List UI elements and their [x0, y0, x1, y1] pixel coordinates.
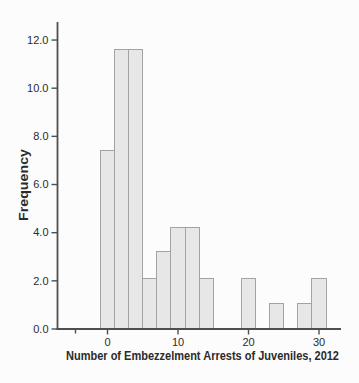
- y-tick-label: 10.0: [27, 82, 48, 94]
- x-tick-label: 30: [313, 336, 325, 348]
- y-tick-label: 4.0: [33, 226, 48, 238]
- histogram-bar: [171, 228, 185, 329]
- y-axis-ticks: 0.02.04.06.08.010.012.0: [27, 34, 57, 335]
- histogram-bar: [100, 151, 114, 329]
- y-tick-label: 0.0: [33, 323, 48, 335]
- histogram-bar: [129, 50, 143, 329]
- histogram-bar: [241, 278, 255, 329]
- y-tick-label: 8.0: [33, 130, 48, 142]
- x-axis-title: Number of Embezzelment Arrests of Juveni…: [66, 348, 339, 363]
- x-tick-label: 10: [172, 336, 184, 348]
- bars-group: [100, 50, 326, 329]
- y-tick-label: 6.0: [33, 178, 48, 190]
- y-tick-label: 12.0: [27, 34, 48, 46]
- histogram-bar: [312, 278, 326, 329]
- x-tick-label: 0: [104, 336, 110, 348]
- x-axis-ticks: 0102030: [104, 329, 325, 348]
- x-tick-label: 20: [242, 336, 254, 348]
- histogram-chart: 0.02.04.06.08.010.012.0 0102030 Frequenc…: [0, 0, 359, 383]
- histogram-bar: [185, 228, 199, 329]
- histogram-bar: [157, 252, 171, 329]
- y-axis-title: Frequency: [16, 148, 31, 221]
- histogram-bar: [199, 278, 213, 329]
- histogram-bar: [115, 50, 129, 329]
- histogram-bar: [143, 278, 157, 329]
- histogram-bar: [270, 304, 284, 329]
- page-background: 0.02.04.06.08.010.012.0 0102030 Frequenc…: [0, 0, 359, 383]
- y-tick-label: 2.0: [33, 275, 48, 287]
- histogram-bar: [298, 304, 312, 329]
